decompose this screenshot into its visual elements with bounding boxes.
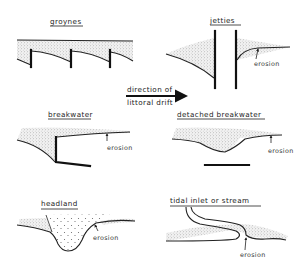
headland-erosion-label: erosion xyxy=(93,234,119,242)
panel-detached-breakwater: detached breakwater erosion xyxy=(172,110,294,165)
tidal-inlet-title: tidal inlet or stream xyxy=(170,196,249,205)
panel-groynes: groynes xyxy=(17,17,133,67)
groynes-title: groynes xyxy=(50,17,82,26)
panel-jetties: jetties erosion xyxy=(166,16,290,88)
detached-breakwater-erosion-label: erosion xyxy=(268,147,294,155)
panel-tidal-inlet: tidal inlet or stream erosion xyxy=(166,196,288,259)
breakwater-erosion-label: erosion xyxy=(107,144,133,152)
drift-label-line1: direction of xyxy=(127,85,173,94)
groynes-shoreline xyxy=(17,51,133,65)
headland-erosion-pointer xyxy=(95,225,98,231)
tidal-inlet-erosion-label: erosion xyxy=(240,251,266,259)
jetties-sand-right xyxy=(237,38,290,60)
jetties-erosion-label: erosion xyxy=(254,60,280,68)
drift-arrow-group: direction of littoral drift xyxy=(126,85,186,107)
headland-title: headland xyxy=(41,199,78,208)
panel-breakwater: breakwater erosion xyxy=(17,110,133,166)
detached-breakwater-sand xyxy=(172,128,282,152)
detached-breakwater-title: detached breakwater xyxy=(177,110,261,119)
drift-label-line2: littoral drift xyxy=(127,98,173,107)
tidal-inlet-erosion-pointer xyxy=(245,238,246,250)
headland-sand-left xyxy=(19,218,52,232)
breakwater-structure xyxy=(56,137,90,166)
panel-headland: headland erosion xyxy=(17,199,135,251)
headland-body xyxy=(46,214,110,251)
breakwater-title: breakwater xyxy=(48,110,93,119)
littoral-drift-diagram: groynes jetties erosion direction of lit… xyxy=(0,0,306,266)
jetties-title: jetties xyxy=(209,16,235,25)
